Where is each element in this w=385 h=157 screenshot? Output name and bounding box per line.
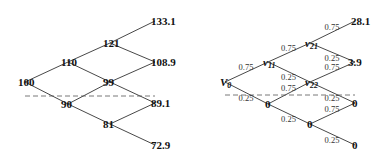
stock-node-s34: 72.9	[151, 139, 171, 151]
option-node-v22: v22	[305, 76, 318, 90]
node-label: 99	[103, 76, 115, 88]
node-label: 28.1	[351, 15, 370, 27]
node-label: 3.9	[348, 56, 362, 68]
option-node-v23: 0	[307, 118, 313, 130]
transition-probability-label: 0.75	[325, 62, 340, 72]
transition-probability-label: 0.25	[325, 53, 340, 63]
option-node-v12: 0	[265, 98, 271, 110]
option-node-v11: v11	[263, 56, 275, 70]
stock-node-s12: 90	[61, 98, 73, 110]
transition-probability-label: 0.25	[325, 93, 340, 103]
stock-node-s21: 121	[103, 37, 120, 49]
tree-edge	[110, 124, 155, 145]
transition-probability-label: 0.75	[325, 22, 340, 32]
transition-probability-label: 0.25	[325, 135, 340, 145]
transition-probability-label: 0.75	[325, 104, 340, 114]
node-label: 89.1	[151, 97, 170, 109]
stock-node-s11: 110	[61, 56, 77, 68]
stock-node-s32: 108.9	[151, 56, 176, 68]
tree-edge	[110, 103, 155, 124]
option-node-v34: 0	[352, 139, 358, 151]
option-node-v32: 3.9	[348, 56, 362, 68]
transition-probability-label: 0.25	[281, 72, 296, 82]
transition-probability-label: 0.75	[281, 43, 296, 53]
option-node-v0: V0	[220, 76, 231, 90]
node-label: 121	[103, 37, 120, 49]
node-label: 108.9	[151, 56, 176, 68]
transition-probability-label: 0.75	[281, 83, 296, 93]
node-label: 133.1	[151, 15, 176, 27]
node-subscript: 22	[309, 81, 318, 90]
transition-probability-label: 0.25	[239, 93, 254, 103]
stock-node-s33: 89.1	[151, 97, 170, 109]
stock-node-s23: 81	[103, 118, 114, 130]
node-subscript: 11	[268, 61, 276, 70]
node-label: 81	[103, 118, 114, 130]
node-subscript: 21	[309, 42, 318, 51]
binomial-trees-diagram: 100110901219981133.1108.989.172.9 0.750.…	[0, 0, 385, 157]
stock-node-s0: 100	[18, 76, 35, 88]
transition-probability-label: 0.75	[239, 62, 254, 72]
node-subscript: 0	[227, 81, 231, 90]
node-label: 90	[61, 98, 73, 110]
node-label: 0	[352, 139, 358, 151]
node-label: 72.9	[151, 139, 171, 151]
node-label: 0	[352, 97, 358, 109]
node-label: 0	[265, 98, 271, 110]
tree-edge	[110, 82, 155, 103]
node-label: 0	[307, 118, 313, 130]
tree-edge	[110, 62, 155, 82]
option-node-v21: v21	[305, 37, 318, 51]
node-label: 100	[18, 76, 35, 88]
option-node-v33: 0	[352, 97, 358, 109]
stock-price-tree: 100110901219981133.1108.989.172.9	[18, 15, 176, 151]
node-label: 110	[61, 56, 77, 68]
stock-node-s22: 99	[103, 76, 115, 88]
option-value-tree: 0.750.250.750.250.750.250.750.250.750.25…	[220, 15, 370, 151]
stock-node-s31: 133.1	[151, 15, 176, 27]
transition-probability-label: 0.25	[281, 114, 296, 124]
option-node-v31: 28.1	[351, 15, 370, 27]
